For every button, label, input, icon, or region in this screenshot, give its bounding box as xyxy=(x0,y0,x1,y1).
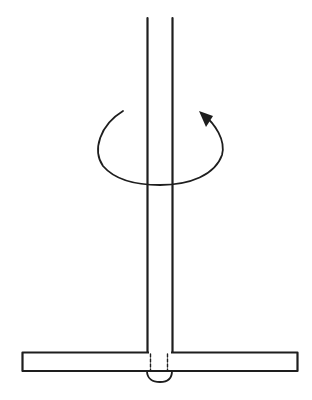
rotating-shaft-diagram xyxy=(0,0,312,400)
diagram-canvas: Rotating vertical shaft joined to a hori… xyxy=(0,0,312,400)
crossbar xyxy=(23,353,298,372)
weld-bead xyxy=(147,371,172,382)
arrowhead-icon xyxy=(199,111,213,127)
hidden-lines xyxy=(151,354,168,370)
rotation-arrow xyxy=(98,111,223,185)
